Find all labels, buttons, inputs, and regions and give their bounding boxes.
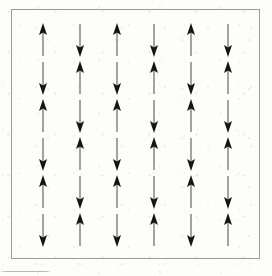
lattice-cell (135, 211, 172, 249)
lattice-cell (25, 97, 62, 135)
spin-arrow-down-icon (36, 213, 50, 247)
lattice-cell (172, 97, 209, 135)
lattice-cell (209, 211, 246, 249)
spin-arrow-down-icon (221, 175, 235, 209)
lattice-cell (25, 21, 62, 59)
lattice-cell (172, 135, 209, 173)
lattice-cell (99, 173, 136, 211)
lattice-cell (135, 59, 172, 97)
spin-arrow-up-icon (221, 137, 235, 171)
spin-arrow-down-icon (184, 137, 198, 171)
spin-arrow-up-icon (184, 175, 198, 209)
lattice-cell (25, 211, 62, 249)
lattice-cell (62, 135, 99, 173)
spin-arrow-up-icon (36, 23, 50, 57)
spin-arrow-down-icon (147, 175, 161, 209)
lattice-cell (209, 59, 246, 97)
lattice-cell (172, 211, 209, 249)
spin-arrow-down-icon (110, 213, 124, 247)
spin-arrow-down-icon (36, 137, 50, 171)
lattice-cell (172, 173, 209, 211)
lattice-cell (99, 59, 136, 97)
lattice-cell (135, 135, 172, 173)
spin-arrow-up-icon (147, 61, 161, 95)
spin-arrow-up-icon (147, 213, 161, 247)
spin-arrow-down-icon (184, 61, 198, 95)
spin-arrow-down-icon (73, 175, 87, 209)
spin-arrow-down-icon (147, 99, 161, 133)
spin-arrow-down-icon (147, 23, 161, 57)
lattice-cell (99, 21, 136, 59)
lattice-cell (62, 21, 99, 59)
lattice-cell (99, 135, 136, 173)
spin-arrow-down-icon (110, 61, 124, 95)
lattice-cell (172, 59, 209, 97)
spin-lattice-grid (11, 9, 260, 259)
spin-arrow-down-icon (184, 213, 198, 247)
spin-arrow-up-icon (36, 175, 50, 209)
lattice-cell (135, 173, 172, 211)
spin-arrow-up-icon (147, 137, 161, 171)
spin-arrow-up-icon (184, 23, 198, 57)
lattice-cell (25, 135, 62, 173)
spin-arrow-up-icon (110, 175, 124, 209)
spin-arrow-up-icon (73, 137, 87, 171)
lattice-cell (99, 211, 136, 249)
lattice-cell (25, 173, 62, 211)
spin-arrow-up-icon (73, 213, 87, 247)
spin-arrow-down-icon (221, 23, 235, 57)
spin-arrow-up-icon (110, 99, 124, 133)
lattice-cell (25, 59, 62, 97)
spin-arrow-down-icon (73, 23, 87, 57)
spin-arrow-down-icon (221, 99, 235, 133)
figure-caption-strip: ̲ ̲ ̲̲̲ ̲ ̲̲ ̲̲ ̲ ̲̲̲̲ ̲̲ ̲ ̲̲̲ ̲ ̲̲ ̲̲̲… (0, 263, 272, 276)
spin-arrow-up-icon (221, 213, 235, 247)
lattice-cell (135, 97, 172, 135)
spin-arrow-up-icon (73, 61, 87, 95)
lattice-cell (209, 21, 246, 59)
lattice-cell (62, 211, 99, 249)
spin-arrow-up-icon (110, 23, 124, 57)
lattice-cell (209, 135, 246, 173)
lattice-cell (209, 97, 246, 135)
figure-caption-text: ̲ ̲ ̲̲̲ ̲ ̲̲ ̲̲ ̲ ̲̲̲̲ ̲̲ ̲ ̲̲̲ ̲ ̲̲ ̲̲̲… (4, 263, 47, 274)
lattice-cell (62, 59, 99, 97)
lattice-cell (172, 21, 209, 59)
spin-arrow-up-icon (36, 99, 50, 133)
lattice-cell (209, 173, 246, 211)
lattice-cell (135, 21, 172, 59)
spin-arrow-up-icon (184, 99, 198, 133)
lattice-cell (62, 97, 99, 135)
spin-arrow-down-icon (36, 61, 50, 95)
spin-arrow-down-icon (73, 99, 87, 133)
lattice-cell (99, 97, 136, 135)
spin-arrow-down-icon (110, 137, 124, 171)
lattice-cell (62, 173, 99, 211)
spin-arrow-up-icon (221, 61, 235, 95)
